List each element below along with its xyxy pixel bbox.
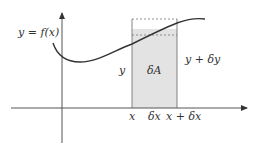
curve-y-equals-f-of-x: [53, 19, 205, 62]
strip-area-label: δA: [147, 64, 162, 77]
x-label-left: x: [129, 110, 136, 123]
strip-left-height-label: y: [118, 64, 126, 77]
curve-label: y = f(x): [17, 26, 59, 39]
x-label-right: x + δx: [166, 110, 202, 123]
strip-right-height-label: y + δy: [184, 53, 221, 66]
x-label-width: δx: [148, 110, 162, 123]
area-strip-diagram: y = f(x) y δA y + δy x δx x + δx: [0, 0, 257, 148]
